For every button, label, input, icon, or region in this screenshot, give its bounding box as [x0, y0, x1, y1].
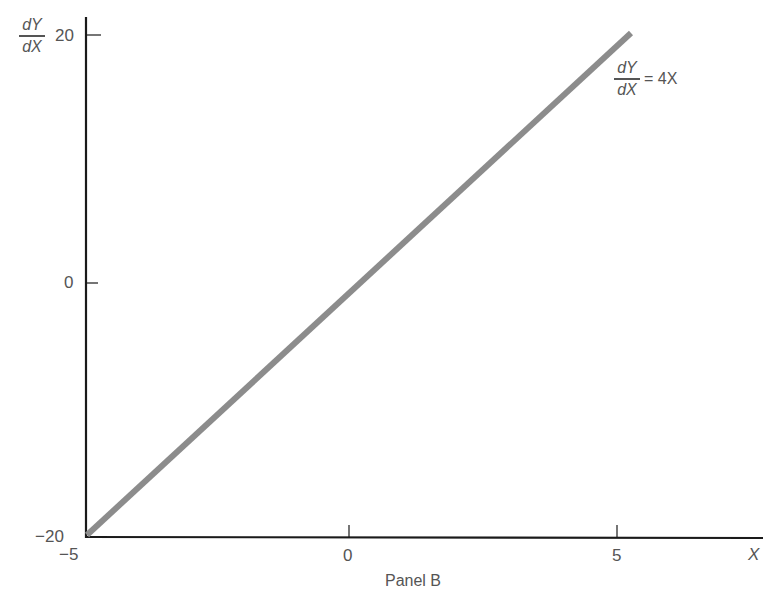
- annotation-numerator: dY: [617, 59, 637, 77]
- y-tick-label-0: 0: [64, 273, 73, 293]
- fraction-bar: [19, 35, 45, 37]
- y-axis-label: dY dX: [19, 16, 45, 56]
- annotation-denominator: dX: [617, 81, 637, 99]
- y-tick-label-neg20: −20: [35, 527, 64, 547]
- y-axis-label-numerator: dY: [22, 16, 42, 34]
- annotation-fraction-bar: [614, 78, 640, 80]
- x-tick-label-5: 5: [612, 546, 621, 566]
- series-line-4x: [87, 33, 631, 535]
- x-tick-label-0: 0: [343, 546, 352, 566]
- x-tick-label-neg5: −5: [59, 545, 78, 565]
- panel-caption: Panel B: [385, 572, 441, 590]
- line-annotation: dY dX = 4X: [614, 59, 677, 99]
- x-axis-label: X: [748, 545, 759, 565]
- y-tick-label-20: 20: [55, 26, 74, 46]
- x-axis: [85, 537, 763, 538]
- annotation-rhs: = 4X: [644, 70, 677, 88]
- annotation-fraction: dY dX: [614, 59, 640, 99]
- y-axis-label-denominator: dX: [22, 38, 42, 56]
